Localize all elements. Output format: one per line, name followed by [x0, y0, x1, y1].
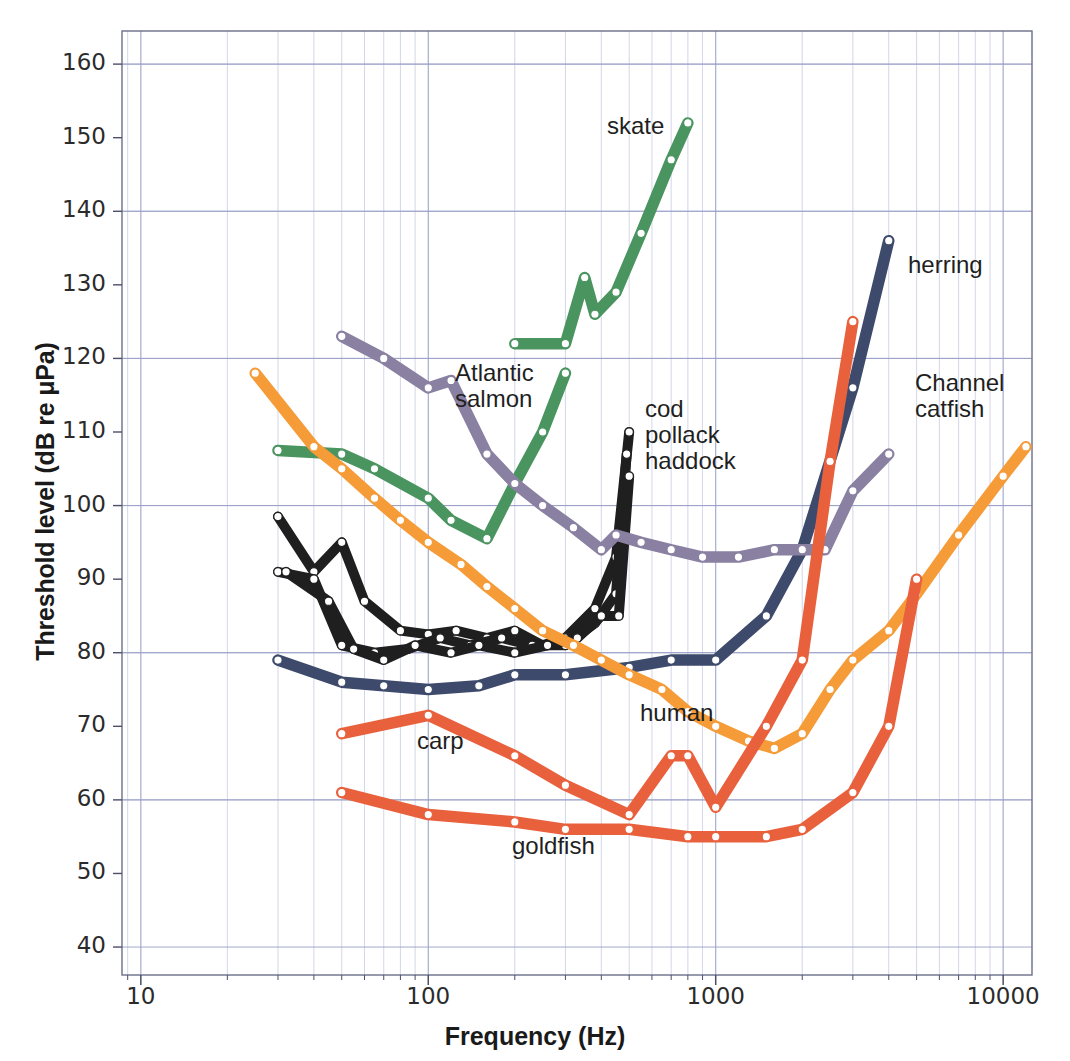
y-tick-110: 110	[40, 417, 106, 443]
x-axis-title: Frequency (Hz)	[0, 1022, 1070, 1051]
y-tick-120: 120	[40, 343, 106, 369]
y-tick-130: 130	[40, 270, 106, 296]
plot-canvas	[0, 0, 1070, 1061]
series-label-skate: skate	[607, 113, 664, 139]
audiogram-figure: Threshold level (dB re μPa) Frequency (H…	[0, 0, 1070, 1061]
x-tick-10000: 10000	[933, 983, 1070, 1009]
y-tick-80: 80	[40, 638, 106, 664]
series-label-herring: herring	[908, 252, 983, 278]
series-label-atlantic-salmon: Atlantic salmon	[455, 360, 534, 412]
y-tick-70: 70	[40, 711, 106, 737]
y-tick-160: 160	[40, 49, 106, 75]
y-tick-90: 90	[40, 564, 106, 590]
series-label-channel-catfish: Channel catfish	[915, 370, 1004, 422]
series-label-carp: carp	[417, 728, 464, 754]
x-tick-10: 10	[71, 983, 211, 1009]
y-tick-150: 150	[40, 123, 106, 149]
y-tick-100: 100	[40, 491, 106, 517]
series-label-human: human	[640, 700, 713, 726]
series-label-goldfish: goldfish	[512, 833, 595, 859]
y-tick-140: 140	[40, 196, 106, 222]
y-tick-40: 40	[40, 932, 106, 958]
x-tick-100: 100	[358, 983, 498, 1009]
x-tick-1000: 1000	[646, 983, 786, 1009]
data-series-layer	[251, 119, 1030, 841]
y-tick-60: 60	[40, 785, 106, 811]
y-tick-50: 50	[40, 858, 106, 884]
series-label-cod-pollack-haddock: cod pollack haddock	[645, 396, 736, 474]
